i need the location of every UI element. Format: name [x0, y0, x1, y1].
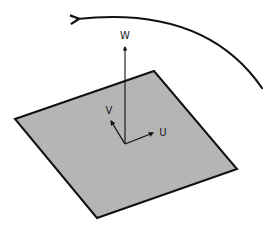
rotation-arrow: [77, 17, 262, 88]
coordinate-frame-diagram: W V U: [0, 0, 275, 234]
u-axis-label: U: [159, 127, 166, 138]
plane: [15, 71, 237, 218]
w-axis-label: W: [120, 30, 130, 41]
v-axis-label: V: [106, 105, 113, 116]
